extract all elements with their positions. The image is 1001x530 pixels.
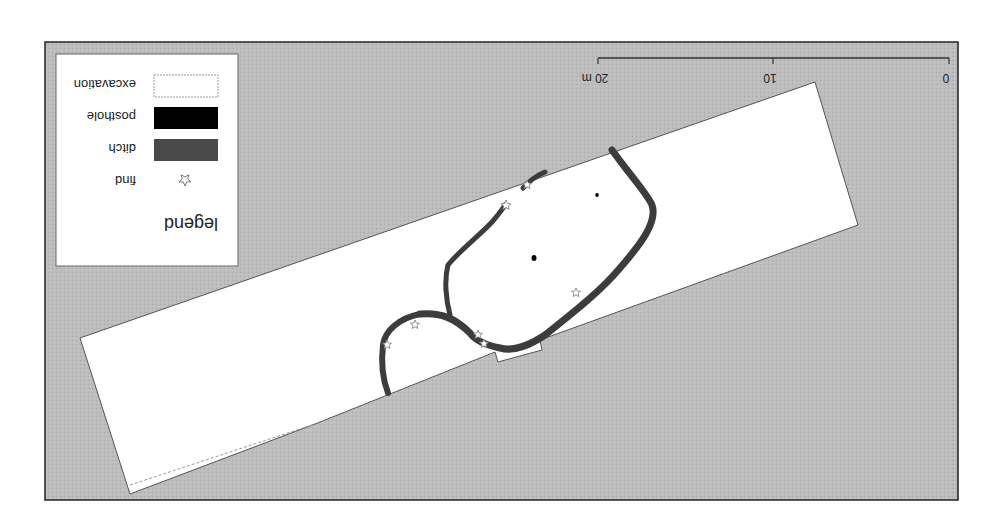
legend: legend find ditch posthole excavation: [56, 54, 238, 266]
legend-title: legend: [164, 214, 218, 234]
legend-label-find: find: [115, 173, 136, 188]
legend-swatch-excavation: [154, 75, 218, 97]
scale-tick-10: 10: [763, 71, 777, 85]
site-map: 0 10 20 m legend find ditch posthole exc…: [0, 0, 1001, 530]
legend-label-excavation: excavation: [74, 77, 136, 92]
posthole: [532, 255, 537, 261]
legend-label-posthole: posthole: [87, 109, 136, 124]
legend-label-ditch: ditch: [109, 141, 136, 156]
posthole: [595, 193, 599, 197]
scale-tick-20: 20 m: [582, 71, 609, 85]
legend-swatch-posthole: [154, 107, 218, 129]
scale-tick-0: 0: [942, 71, 949, 85]
legend-swatch-ditch: [154, 139, 218, 161]
